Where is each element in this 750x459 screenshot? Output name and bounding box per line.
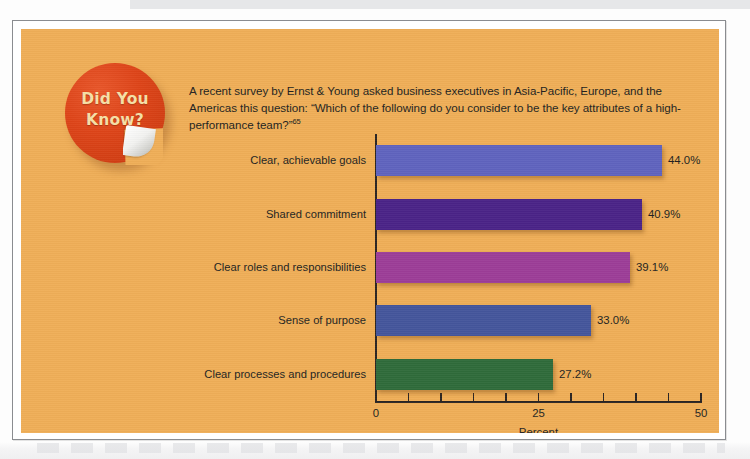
x-axis-tick-label: 25 [519, 407, 559, 420]
bar [376, 145, 662, 176]
figure-frame: Did You Know? A recent survey by Ernst &… [12, 20, 726, 440]
bar-category-label: Shared commitment [131, 208, 366, 221]
x-axis-minor-tick [505, 393, 507, 401]
x-axis-line [375, 401, 702, 403]
bar-category-label: Sense of purpose [131, 314, 366, 327]
did-you-know-panel: Did You Know? A recent survey by Ernst &… [21, 29, 719, 433]
bar [376, 199, 642, 230]
scan-artifact-top [130, 0, 750, 9]
x-axis-minor-tick [473, 393, 475, 401]
x-axis-major-tick [538, 393, 540, 401]
bar-category-label: Clear roles and responsibilities [131, 261, 366, 274]
bar-value-label: 44.0% [668, 154, 700, 167]
x-axis-minor-tick [668, 393, 670, 401]
bar-value-label: 27.2% [559, 368, 591, 381]
x-axis-minor-tick [570, 393, 572, 401]
bar [376, 305, 591, 336]
x-axis-tick-label: 50 [681, 407, 719, 420]
bar-value-label: 33.0% [597, 314, 629, 327]
x-axis-major-tick [375, 393, 377, 401]
scan-artifact-smudge [25, 443, 725, 453]
bar-value-label: 39.1% [636, 261, 668, 274]
bar-chart: 02550PercentClear, achievable goals44.0%… [21, 29, 719, 433]
bar-category-label: Clear processes and procedures [131, 368, 366, 381]
x-axis-minor-tick [408, 393, 410, 401]
bar-category-label: Clear, achievable goals [131, 154, 366, 167]
x-axis-minor-tick [635, 393, 637, 401]
bar [376, 252, 630, 283]
x-axis-major-tick [700, 393, 702, 401]
bar [376, 359, 553, 390]
x-axis-minor-tick [603, 393, 605, 401]
x-axis-tick-label: 0 [356, 407, 396, 420]
bar-value-label: 40.9% [648, 208, 680, 221]
x-axis-minor-tick [440, 393, 442, 401]
x-axis-title: Percent [336, 426, 719, 433]
scanned-page: Did You Know? A recent survey by Ernst &… [0, 0, 750, 459]
